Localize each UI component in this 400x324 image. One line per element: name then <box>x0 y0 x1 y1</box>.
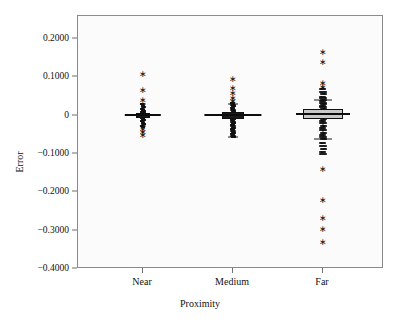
y-axis-tick-mark <box>72 38 77 39</box>
x-axis-tick-label-near: Near <box>132 276 151 287</box>
y-axis-tick-labels: 0.20000.10000−0.1000−0.2000−0.3000−0.400… <box>0 0 69 324</box>
outlier-marker: ∗ <box>319 225 327 234</box>
y-axis-tick-label: 0.2000 <box>43 33 69 43</box>
outlier-marker: ∗ <box>319 165 327 174</box>
y-axis-title: Error <box>14 151 25 172</box>
y-axis-tick-mark <box>72 76 77 77</box>
outlier-marker: ∗ <box>319 238 327 247</box>
y-axis-tick-mark <box>72 191 77 192</box>
x-axis-tick-mark <box>232 268 233 273</box>
outlier-marker: ∗ <box>319 58 327 67</box>
outlier-marker: ∗ <box>319 196 327 205</box>
y-axis-tick-label: 0 <box>64 110 69 120</box>
y-axis-tick-mark <box>72 153 77 154</box>
x-axis-tick-label-far: Far <box>315 276 328 287</box>
y-axis-tick-mark <box>72 229 77 230</box>
median-line-far <box>296 113 350 115</box>
outlier-marker: ∗ <box>319 213 327 222</box>
outlier-marker: ∗ <box>319 82 327 91</box>
y-axis-tick-mark <box>72 114 77 115</box>
data-point <box>325 138 327 140</box>
series-layer: ∗∗∗∗∗∗∗∗∗∗∗∗∗∗∗∗∗∗∗∗ <box>78 16 382 267</box>
y-axis-tick-label: 0.1000 <box>43 71 69 81</box>
plot-area: ∗∗∗∗∗∗∗∗∗∗∗∗∗∗∗∗∗∗∗∗ <box>77 15 383 268</box>
x-axis-tick-mark <box>142 268 143 273</box>
y-axis-tick-label: −0.2000 <box>38 186 69 196</box>
outlier-marker: ∗ <box>229 97 237 106</box>
median-line-medium <box>204 114 261 116</box>
y-axis-tick-label: −0.4000 <box>38 263 69 273</box>
boxplot-figure: 0.20000.10000−0.1000−0.2000−0.3000−0.400… <box>0 0 400 324</box>
x-axis-title: Proximity <box>0 298 400 309</box>
outlier-marker: ∗ <box>139 85 147 94</box>
x-axis-tick-mark <box>322 268 323 273</box>
outlier-marker: ∗ <box>319 48 327 57</box>
outlier-marker: ∗ <box>139 130 147 139</box>
y-axis-tick-mark <box>72 268 77 269</box>
y-axis-tick-label: −0.1000 <box>38 148 69 158</box>
median-line-near <box>125 114 161 116</box>
outlier-marker: ∗ <box>139 96 147 105</box>
data-point <box>325 148 327 150</box>
x-axis-tick-label-medium: Medium <box>215 276 249 287</box>
data-point <box>324 142 326 144</box>
data-point <box>325 145 327 147</box>
y-axis-tick-label: −0.3000 <box>38 225 69 235</box>
data-point <box>325 153 327 155</box>
data-point <box>234 136 236 138</box>
outlier-marker: ∗ <box>139 70 147 79</box>
